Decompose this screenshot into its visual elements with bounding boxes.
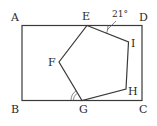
label-e: E xyxy=(82,10,90,23)
label-a: A xyxy=(10,11,20,24)
geometry-figure: A E D 21° I F H B G C xyxy=(0,0,157,126)
label-f: F xyxy=(48,56,56,69)
angle-label-21: 21° xyxy=(112,9,128,19)
label-b: B xyxy=(11,103,19,116)
angle-arc-g-inner xyxy=(73,93,77,100)
label-d: D xyxy=(139,11,148,24)
label-g: G xyxy=(79,103,88,116)
label-c: C xyxy=(139,103,147,116)
label-i: I xyxy=(131,37,135,50)
label-h: H xyxy=(128,85,138,98)
pentagon-efghi xyxy=(59,26,129,101)
